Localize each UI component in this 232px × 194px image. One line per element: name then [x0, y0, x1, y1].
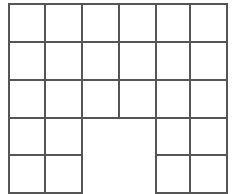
- grid-cell: [44, 117, 83, 156]
- grid-cell: [118, 3, 157, 43]
- grid-cell: [44, 154, 83, 194]
- grid-cell: [155, 79, 191, 119]
- grid-cell: [189, 117, 228, 156]
- grid-cell: [189, 3, 228, 43]
- grid-cell: [155, 3, 191, 43]
- grid-cell: [81, 3, 120, 43]
- grid-cell: [44, 79, 83, 119]
- grid-cell: [44, 3, 83, 43]
- grid-cell: [8, 79, 46, 119]
- grid-cell: [118, 41, 157, 81]
- grid-cell: [8, 3, 46, 43]
- grid-cell: [44, 41, 83, 81]
- grid-cell: [8, 154, 46, 194]
- grid-cell: [189, 79, 228, 119]
- grid-cell: [155, 117, 191, 156]
- grid-cell: [81, 41, 120, 81]
- grid-cell: [8, 117, 46, 156]
- grid-cell: [155, 154, 191, 194]
- grid-cell: [118, 79, 157, 119]
- grid-cell: [8, 41, 46, 81]
- grid-cell: [81, 79, 120, 119]
- grid-cell: [189, 41, 228, 81]
- grid-cell: [155, 41, 191, 81]
- grid-diagram: [0, 0, 232, 194]
- grid-cell: [189, 154, 228, 194]
